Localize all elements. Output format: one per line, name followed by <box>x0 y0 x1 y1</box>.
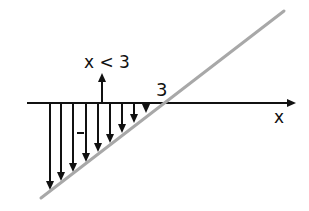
up-arrowhead-icon <box>98 73 106 82</box>
x-axis-arrowhead-icon <box>287 99 296 107</box>
condition-label: x < 3 <box>84 52 130 72</box>
negative-arrows <box>46 104 150 190</box>
root-label: 3 <box>156 79 167 100</box>
axis-label: x <box>274 107 284 127</box>
linear-function-line <box>41 11 284 198</box>
sign-diagram: x < 3 3 x <box>0 0 309 211</box>
